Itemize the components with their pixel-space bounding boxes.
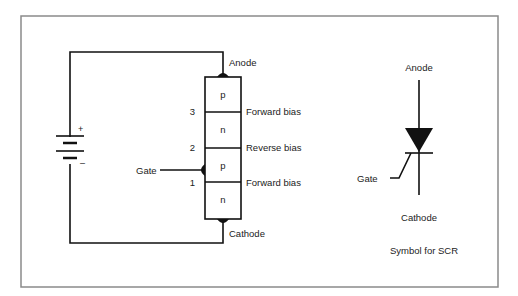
junction-2-number: 2 <box>190 142 195 153</box>
circuit-gate-label: Gate <box>136 165 157 176</box>
junction-1-bias: Forward bias <box>246 177 301 188</box>
battery-minus: – <box>80 158 85 168</box>
junction-3-bias: Forward bias <box>246 106 301 117</box>
battery-plus: + <box>78 124 83 134</box>
scr-symbol-triangle <box>405 128 433 152</box>
layer-n2: n <box>220 194 225 205</box>
scr-diagram: + – p n p n 3 2 1 Forward bias Reverse b… <box>0 0 518 296</box>
junction-2-bias: Reverse bias <box>246 142 302 153</box>
layer-n1: n <box>220 124 225 135</box>
circuit-cathode-label: Cathode <box>229 228 265 239</box>
symbol-cathode-label: Cathode <box>401 212 437 223</box>
layer-p2: p <box>220 160 225 171</box>
battery-icon <box>56 136 84 158</box>
junction-3-number: 3 <box>190 106 195 117</box>
layer-p1: p <box>220 89 225 100</box>
junction-1-number: 1 <box>190 177 195 188</box>
circuit-anode-label: Anode <box>229 57 256 68</box>
symbol-gate-label: Gate <box>357 173 378 184</box>
symbol-anode-label: Anode <box>405 62 432 73</box>
symbol-caption: Symbol for SCR <box>390 245 458 256</box>
circuit-wires <box>70 52 223 243</box>
